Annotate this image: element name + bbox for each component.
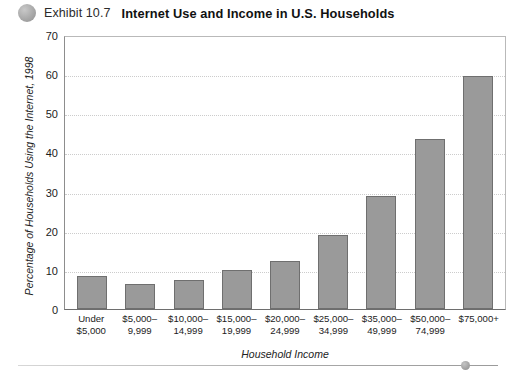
x-axis-tick-label-line: $50,000– [406, 313, 454, 325]
x-axis-tick-label-line: $25,000– [309, 313, 357, 325]
bar [366, 196, 396, 310]
x-axis-tick-label-line: 19,999 [213, 325, 261, 337]
x-axis-tick-label: $50,000–74,999 [406, 313, 454, 345]
x-axis-tick-label-line: $5,000– [116, 313, 164, 325]
x-axis-tick-label-line: $15,000– [213, 313, 261, 325]
x-axis-tick-label: $25,000–34,999 [309, 313, 357, 345]
bar [415, 139, 445, 309]
y-axis-tick-label: 70 [26, 30, 58, 42]
x-axis-tick-label-line: 14,999 [164, 325, 212, 337]
circle-bullet-icon [18, 4, 36, 22]
x-axis-tick-label-line: Under [67, 313, 115, 325]
bar [463, 76, 493, 309]
x-axis-tick-labels: Under$5,000$5,000–9,999$10,000–14,999$15… [64, 313, 506, 345]
x-axis-tick-label: $10,000–14,999 [164, 313, 212, 345]
x-axis-tick-label-line: 9,999 [116, 325, 164, 337]
x-axis-tick-label: Under$5,000 [67, 313, 115, 345]
x-axis-tick-label-line: 49,999 [358, 325, 406, 337]
exhibit-header: Exhibit 10.7 Internet Use and Income in … [0, 0, 515, 26]
y-axis-tick-label: 0 [26, 304, 58, 316]
x-axis-title: Household Income [64, 348, 506, 360]
bar-chart: Percentage of Households Using the Inter… [0, 26, 515, 346]
x-axis-tick-label-line: $75,000+ [455, 313, 503, 325]
y-axis-tick-label: 50 [26, 108, 58, 120]
x-axis-tick-label-line: 74,999 [406, 325, 454, 337]
page-title: Internet Use and Income in U.S. Househol… [122, 6, 395, 21]
bar [77, 276, 107, 309]
exhibit-number: Exhibit 10.7 [44, 6, 111, 20]
plot-area [64, 36, 506, 310]
bar-series [65, 37, 505, 309]
bar [174, 280, 204, 309]
y-axis-tick-label: 10 [26, 265, 58, 277]
x-axis-tick-label: $15,000–19,999 [213, 313, 261, 345]
x-axis-tick-label-line: $20,000– [261, 313, 309, 325]
y-axis-tick-label: 60 [26, 69, 58, 81]
divider-line [18, 365, 498, 366]
x-axis-tick-label: $35,000–49,999 [358, 313, 406, 345]
bar [125, 284, 155, 309]
x-axis-tick-label: $75,000+ [455, 313, 503, 345]
x-axis-tick-label-line: 34,999 [309, 325, 357, 337]
y-axis-tick-label: 20 [26, 226, 58, 238]
bar [318, 235, 348, 309]
x-axis-tick-label-line: $10,000– [164, 313, 212, 325]
y-axis-tick-label: 30 [26, 187, 58, 199]
x-axis-tick-label-line: 24,999 [261, 325, 309, 337]
x-axis-tick-label-line: $35,000– [358, 313, 406, 325]
y-axis-tick-labels: 010203040506070 [26, 26, 58, 310]
x-axis-tick-label-line: $5,000 [67, 325, 115, 337]
circle-dot-icon [461, 361, 470, 370]
bar [270, 261, 300, 309]
x-axis-tick-label: $20,000–24,999 [261, 313, 309, 345]
bar [222, 270, 252, 309]
footer-divider [18, 360, 498, 372]
y-axis-tick-label: 40 [26, 147, 58, 159]
x-axis-tick-label: $5,000–9,999 [116, 313, 164, 345]
